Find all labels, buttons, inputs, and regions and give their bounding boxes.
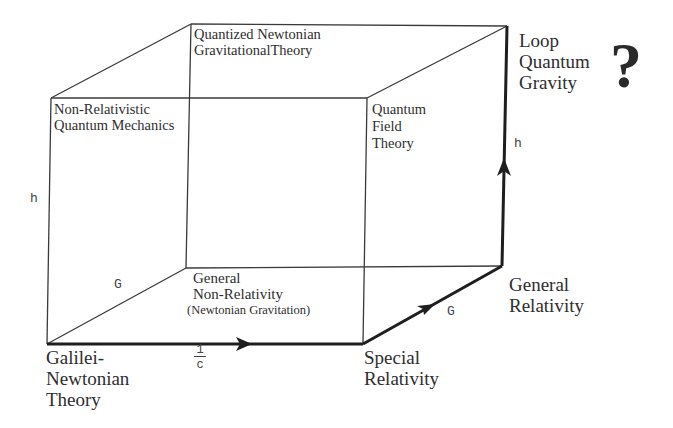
- edge-front-right: [363, 98, 367, 344]
- label-non-relativistic-quantum-mechanics: Non-Relativistic Quantum Mechanics: [54, 101, 174, 133]
- label-galilei-newtonian-theory: Galilei- Newtonian Theory: [46, 347, 129, 410]
- edge-top-right-depth: [367, 26, 507, 98]
- edge-back-bottom: [186, 266, 502, 268]
- label-newtonian-gravitation: (Newtonian Gravitation): [187, 303, 310, 317]
- label-general-non-relativity: General Non-Relativity: [193, 270, 283, 302]
- label-special-relativity: Special Relativity: [364, 347, 439, 389]
- axis-label-h-path: h: [514, 137, 522, 151]
- question-mark-icon: ?: [610, 34, 642, 98]
- axis-label-h-left: h: [30, 192, 38, 206]
- label-general-relativity: General Relativity: [509, 274, 584, 316]
- theory-cube-diagram: Quantized Newtonian GravitationalTheory …: [0, 0, 673, 428]
- one-over-c-numerator: 1: [194, 345, 206, 357]
- label-loop-quantum-gravity: Loop Quantum Gravity: [519, 30, 590, 93]
- edge-top-left-depth: [51, 24, 191, 98]
- label-quantum-field-theory: Quantum Field Theory: [372, 101, 426, 152]
- label-quantized-newtonian-gravitational-theory: Quantized Newtonian GravitationalTheory: [194, 26, 321, 58]
- path-h: [502, 26, 507, 266]
- axis-label-G-path: G: [447, 305, 455, 319]
- one-over-c-denominator: c: [194, 359, 206, 372]
- edge-front-left: [47, 98, 51, 344]
- edge-back-left: [186, 24, 191, 268]
- axis-label-G-left: G: [114, 278, 122, 292]
- axis-label-one-over-c: 1 c: [194, 345, 206, 372]
